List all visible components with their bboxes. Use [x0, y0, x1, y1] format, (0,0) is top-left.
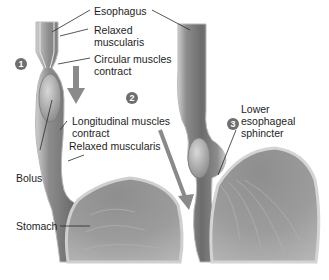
peristalsis-illustration	[0, 0, 329, 280]
label-relaxed-muscularis-bottom: Relaxed muscularis	[69, 140, 161, 152]
downward-arrow-step-1	[67, 66, 85, 104]
label-longitudinal-muscles-line2: contract	[72, 127, 109, 139]
label-circular-muscles-line1: Circular muscles	[94, 53, 172, 65]
label-longitudinal-muscles-line1: Longitudinal muscles	[72, 115, 170, 127]
label-relaxed-muscularis-top-line1: Relaxed	[94, 24, 133, 36]
label-les-line3: sphincter	[241, 127, 284, 139]
label-stomach: Stomach	[16, 220, 57, 232]
label-les-line1: Lower	[241, 103, 270, 115]
step-badge-2: 2	[126, 92, 138, 104]
step-badge-1: 1	[15, 58, 27, 70]
label-relaxed-muscularis-top-line2: muscularis	[94, 36, 144, 48]
label-bolus: Bolus	[16, 172, 42, 184]
label-circular-muscles-line2: contract	[94, 65, 131, 77]
right-esophagus	[178, 24, 319, 262]
step-badge-3: 3	[227, 118, 239, 130]
label-esophagus: Esophagus	[94, 5, 147, 17]
label-les-line2: esophageal	[241, 115, 295, 127]
